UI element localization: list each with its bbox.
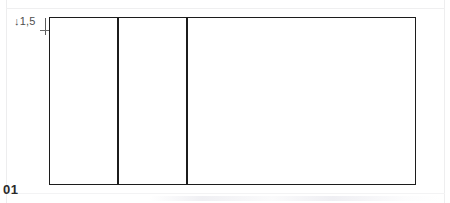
page-edge-top [6,8,445,9]
page-edge-right [444,0,445,203]
scan-artifact [150,196,440,201]
down-arrow-icon: ↓ [14,15,20,27]
scanned-page: ↓1,5 01 [0,0,450,203]
page-edge-left [6,0,7,203]
page-edge-bottom [6,193,445,194]
dimension-value: 1,5 [20,15,36,27]
frame-divider-1 [117,17,119,185]
drawing-frame [49,17,416,185]
dimension-label: ↓1,5 [14,15,36,27]
dimension-extension-line [45,18,46,35]
page-number: 01 [3,182,18,197]
frame-divider-2 [186,17,188,185]
